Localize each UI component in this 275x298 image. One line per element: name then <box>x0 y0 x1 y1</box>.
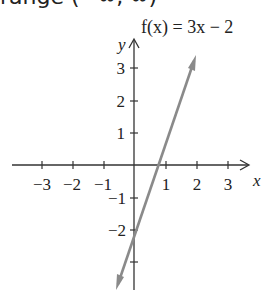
x-tick-label: 2 <box>193 175 202 194</box>
function-graph: −3 −2 −1 1 2 3 x 3 2 1 −1 −2 y f(x) = 3x… <box>0 0 275 298</box>
y-tick-label: −1 <box>108 189 126 208</box>
x-tick-label: 1 <box>162 175 171 194</box>
x-tick-label: −3 <box>33 175 51 194</box>
x-tick-label: 3 <box>224 175 233 194</box>
y-tick-label: 2 <box>117 92 126 111</box>
y-axis-label: y <box>116 35 126 54</box>
y-tick-label: −2 <box>108 221 126 240</box>
y-tick-label: 3 <box>117 59 126 78</box>
line-arrow-down-icon <box>116 274 124 290</box>
line-arrow-up-icon <box>188 55 196 71</box>
x-tick-label: −2 <box>63 175 81 194</box>
y-tick-label: 1 <box>117 124 126 143</box>
function-label: f(x) = 3x − 2 <box>141 17 233 38</box>
function-line <box>118 61 194 284</box>
x-axis-label: x <box>252 171 261 190</box>
